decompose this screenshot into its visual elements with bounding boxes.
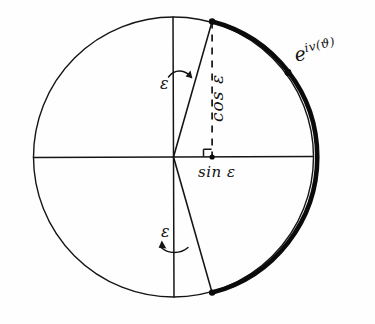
lower-angle-arrowhead (159, 241, 167, 249)
figure-container: eiv(ϑ) cos ε sin ε ε ε (0, 0, 375, 324)
sin-epsilon-label: sin ε (198, 163, 235, 181)
marked-point (285, 69, 292, 76)
upper-angle-arrowhead (186, 71, 193, 79)
arc-lower-endpoint (209, 289, 215, 295)
upper-epsilon-label: ε (160, 74, 169, 93)
cos-epsilon-label: cos ε (207, 74, 227, 122)
lower-epsilon-label: ε (161, 222, 170, 241)
foot-point (210, 154, 215, 159)
arc-upper-endpoint (209, 18, 215, 24)
